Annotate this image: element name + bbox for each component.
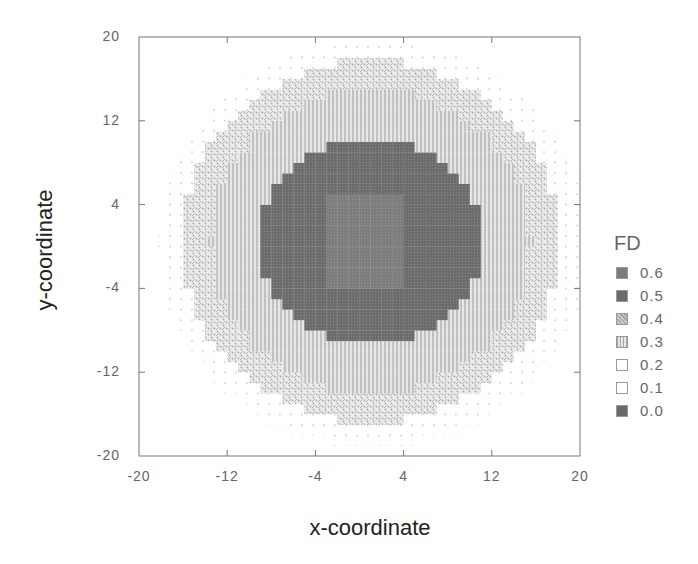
heatmap-cell [150,267,161,278]
heatmap-cell [271,110,282,121]
heatmap-cell [437,100,448,111]
heatmap-cell [172,100,183,111]
heatmap-cell [525,435,536,446]
heatmap-cell [238,100,249,111]
heatmap-cell [426,372,437,383]
heatmap-cell [348,383,359,394]
heatmap-cell [337,446,348,457]
heatmap-cell [382,142,393,153]
heatmap-cell [282,37,293,48]
heatmap-cell [382,163,393,174]
heatmap-cell [371,257,382,268]
heatmap-cell [337,236,348,247]
heatmap-cell [172,194,183,205]
heatmap-cell [315,309,326,320]
heatmap-cell [205,58,216,69]
heatmap-cell [172,341,183,352]
heatmap-cell [426,267,437,278]
heatmap-cell [426,110,437,121]
heatmap-cell [382,215,393,226]
heatmap-cell [161,236,172,247]
heatmap-cell [547,173,558,184]
heatmap-cell [172,257,183,268]
heatmap-cell [426,299,437,310]
heatmap-cell [371,414,382,425]
heatmap-cell [371,142,382,153]
heatmap-cell [382,404,393,415]
heatmap-cell [470,257,481,268]
heatmap-cell [503,205,514,216]
heatmap-cell [337,299,348,310]
heatmap-cell [426,173,437,184]
heatmap-cell [481,205,492,216]
heatmap-cell [360,205,371,216]
heatmap-cell [161,330,172,341]
heatmap-cell [481,320,492,331]
heatmap-cell [183,205,194,216]
heatmap-cell [150,446,161,457]
heatmap-cell [172,79,183,90]
heatmap-cell [382,236,393,247]
heatmap-cell [426,435,437,446]
heatmap-cell [459,383,470,394]
heatmap-cell [437,341,448,352]
heatmap-cell [437,194,448,205]
heatmap-cell [304,425,315,436]
heatmap-cell [536,435,547,446]
heatmap-cell [205,309,216,320]
heatmap-cell [536,404,547,415]
heatmap-cell [249,288,260,299]
heatmap-cell [337,89,348,100]
heatmap-cell [249,309,260,320]
heatmap-cell [205,393,216,404]
heatmap-cell [238,362,249,373]
legend-swatch [616,336,628,348]
heatmap-cell [525,278,536,289]
heatmap-cell [183,257,194,268]
heatmap-cell [481,110,492,121]
heatmap-cell [161,205,172,216]
heatmap-cell [293,425,304,436]
heatmap-cell [448,215,459,226]
legend-label: 0.0 [640,402,664,419]
heatmap-cell [404,330,415,341]
heatmap-cell [393,236,404,247]
legend-item: 0.3 [604,330,664,353]
heatmap-cell [348,414,359,425]
heatmap-cell [404,215,415,226]
heatmap-cell [337,184,348,195]
heatmap-cell [304,299,315,310]
heatmap-cell [238,299,249,310]
heatmap-cell [238,383,249,394]
heatmap-cell [150,163,161,174]
heatmap-cell [249,383,260,394]
heatmap-cell [360,446,371,457]
heatmap-cell [337,194,348,205]
heatmap-cell [547,236,558,247]
heatmap-cell [514,278,525,289]
heatmap-cell [348,320,359,331]
heatmap-cell [293,131,304,142]
legend-item: 0.1 [604,376,664,399]
heatmap-cell [371,267,382,278]
heatmap-cell [227,446,238,457]
heatmap-cell [459,372,470,383]
heatmap-cell [172,152,183,163]
heatmap-cell [315,194,326,205]
heatmap-cell [238,341,249,352]
legend: FD 0.60.50.40.30.20.10.0 [604,232,664,422]
heatmap-cell [503,404,514,415]
heatmap-cell [481,341,492,352]
heatmap-cell [337,267,348,278]
heatmap-cell [459,215,470,226]
heatmap-cell [492,121,503,132]
heatmap-cell [216,236,227,247]
heatmap-cell [514,152,525,163]
heatmap-cell [415,267,426,278]
heatmap-cell [382,351,393,362]
heatmap-cell [404,383,415,394]
heatmap-cell [161,267,172,278]
heatmap-cell [448,341,459,352]
heatmap-cell [415,184,426,195]
heatmap-cell [536,414,547,425]
